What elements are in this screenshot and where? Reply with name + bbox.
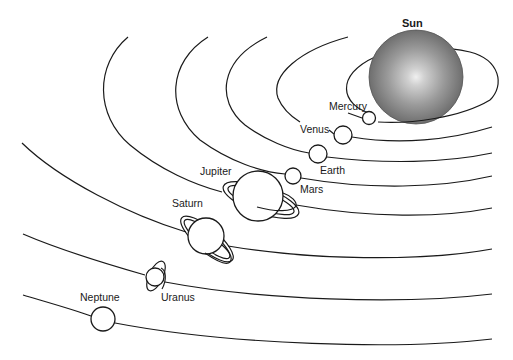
neptune-icon — [91, 307, 115, 331]
uranus-icon — [146, 268, 164, 286]
earth-orbit-right — [327, 153, 492, 162]
mars-icon — [285, 168, 301, 184]
venus-icon — [334, 126, 352, 144]
venus-label: Venus — [300, 123, 329, 135]
venus: Venus — [300, 123, 352, 144]
neptune-orbit-right — [115, 323, 492, 345]
mars-orbit-right — [301, 176, 492, 186]
saturn-orbit-right — [228, 246, 492, 258]
sun-icon — [369, 30, 463, 124]
neptune: Neptune — [80, 291, 120, 331]
mercury-icon — [363, 112, 376, 125]
mercury: Mercury — [329, 100, 376, 125]
uranus-label: Uranus — [161, 291, 195, 303]
uranus-orbit — [23, 234, 145, 275]
diagram-canvas: Sun Mercury Venus Earth Mars Jupiter Sat… — [0, 0, 513, 360]
uranus: Uranus — [143, 259, 195, 303]
saturn: Saturn — [172, 197, 239, 269]
earth-orbit — [226, 37, 309, 153]
mercury-label: Mercury — [329, 100, 368, 112]
jupiter-orbit-right — [296, 205, 492, 215]
earth-label: Earth — [320, 164, 345, 176]
jupiter-label: Jupiter — [200, 165, 232, 177]
saturn-orbit — [22, 143, 186, 232]
uranus-orbit-right — [165, 282, 492, 300]
earth: Earth — [309, 145, 345, 176]
sun-group: Sun — [346, 17, 498, 124]
jupiter-icon — [233, 171, 283, 221]
solar-system-diagram: Sun Mercury Venus Earth Mars Jupiter Sat… — [0, 0, 513, 360]
earth-icon — [309, 145, 327, 163]
sun-label: Sun — [402, 17, 423, 29]
saturn-label: Saturn — [172, 197, 203, 209]
neptune-label: Neptune — [80, 291, 120, 303]
venus-orbit-right — [352, 127, 492, 141]
mars-label: Mars — [300, 183, 323, 195]
saturn-icon — [188, 218, 224, 254]
mars: Mars — [285, 168, 323, 195]
